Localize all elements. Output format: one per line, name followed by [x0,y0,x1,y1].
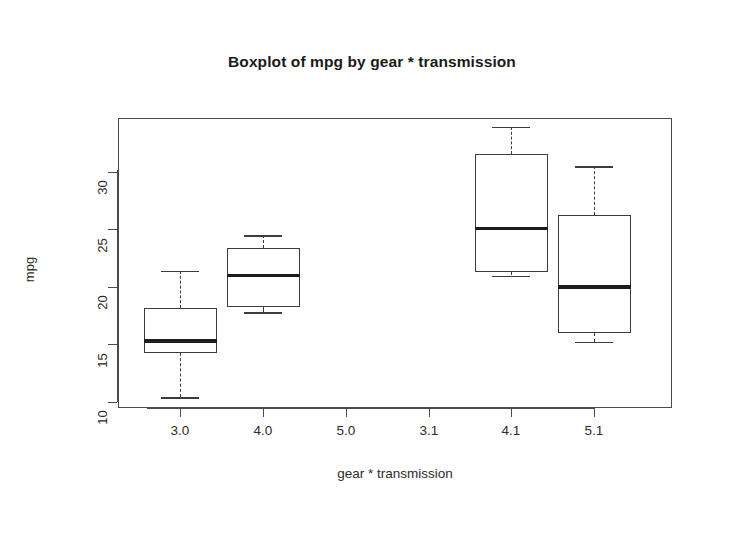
x-tick-label-3.1: 3.1 [399,423,459,438]
y-tick-label-10: 10 [95,401,110,435]
screenshot-page: Boxplot of mpg by gear * transmission mp… [0,0,734,548]
whisker-lower-3.0 [180,353,182,398]
x-tick-label-5.0: 5.0 [316,423,376,438]
x-axis-line [147,408,594,409]
whisker-cap-upper-3.0 [161,271,199,272]
median-line-3.0 [144,339,217,343]
y-axis-title: mpg [22,235,37,305]
x-tick-5.0 [346,408,347,417]
box-iqr-5.1 [558,215,631,333]
x-tick-4.1 [511,408,512,417]
x-tick-4.0 [263,408,264,417]
whisker-cap-lower-3.0 [161,397,199,398]
whisker-cap-upper-4.0 [244,235,282,236]
whisker-upper-5.1 [594,166,596,214]
whisker-cap-upper-5.1 [575,166,613,167]
median-line-5.1 [558,285,631,289]
x-tick-label-4.1: 4.1 [481,423,541,438]
whisker-cap-lower-5.1 [575,342,613,343]
y-tick-label-15: 15 [95,343,110,377]
whisker-cap-lower-4.0 [244,312,282,313]
median-line-4.1 [475,227,548,231]
whisker-upper-4.0 [263,235,265,248]
box-iqr-4.1 [475,154,548,272]
whisker-cap-upper-4.1 [492,127,530,128]
y-axis-line [117,170,118,402]
x-tick-5.1 [594,408,595,417]
x-tick-label-5.1: 5.1 [564,423,624,438]
x-tick-3.0 [180,408,181,417]
x-tick-3.1 [429,408,430,417]
y-tick-label-20: 20 [95,286,110,320]
box-iqr-3.0 [144,308,217,353]
y-tick-label-25: 25 [95,228,110,262]
median-line-4.0 [227,274,300,278]
x-axis-title: gear * transmission [118,466,672,481]
x-tick-label-4.0: 4.0 [233,423,293,438]
whisker-upper-4.1 [511,127,513,153]
whisker-lower-5.1 [594,333,596,342]
y-tick-label-30: 30 [95,171,110,205]
whisker-upper-3.0 [180,271,182,308]
chart-title: Boxplot of mpg by gear * transmission [24,53,720,71]
x-tick-label-3.0: 3.0 [150,423,210,438]
whisker-cap-lower-4.1 [492,276,530,277]
